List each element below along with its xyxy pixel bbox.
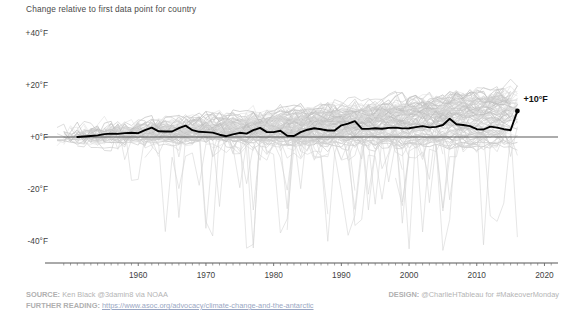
highlight-endpoint-marker [515, 109, 520, 114]
source-credit: SOURCE: Ken Black @3damin8 via NOAA [26, 290, 168, 299]
background-series-line [341, 134, 409, 226]
x-axis-tick-label: 1990 [332, 270, 350, 280]
further-reading-link[interactable]: https://www.asoc.org/advocacy/climate-ch… [102, 301, 314, 310]
chart-subtitle: Change relative to first data point for … [26, 4, 196, 14]
y-axis-tick-label: +40°F [2, 28, 48, 38]
y-axis-tick-label: +0°F [2, 132, 48, 142]
value-annotation: +10°F [523, 94, 547, 104]
design-text: @CharlieHTableau for #MakeoverMonday [421, 290, 559, 299]
x-axis-tick-label: 1980 [264, 270, 282, 280]
source-text: Ken Black @3damin8 via NOAA [62, 290, 168, 299]
x-axis-tick-labels: 1960197019801990200020102020 [0, 270, 569, 286]
x-axis-tick-label: 2000 [400, 270, 418, 280]
x-axis-tick-label: 2010 [468, 270, 486, 280]
chart-root: Change relative to first data point for … [0, 0, 569, 318]
source-label: SOURCE: [26, 290, 60, 299]
x-axis-tick-label: 1960 [129, 270, 147, 280]
design-credit: DESIGN: @CharlieHTableau for #MakeoverMo… [388, 290, 559, 299]
background-series-group [57, 79, 517, 250]
y-axis-tick-label: -40°F [2, 236, 48, 246]
further-reading: FURTHER READING: https://www.asoc.org/ad… [26, 301, 314, 310]
spaghetti-plot [0, 18, 569, 266]
design-label: DESIGN: [388, 290, 419, 299]
further-reading-label: FURTHER READING: [26, 301, 100, 310]
y-axis-tick-label: +20°F [2, 80, 48, 90]
background-series-line [165, 124, 443, 248]
x-axis-tick-label: 2020 [535, 270, 553, 280]
x-axis-tick-label: 1970 [197, 270, 215, 280]
chart-footer: SOURCE: Ken Black @3damin8 via NOAA DESI… [0, 288, 569, 318]
background-series-line [206, 124, 402, 248]
footer-row-reading: FURTHER READING: https://www.asoc.org/ad… [0, 301, 569, 313]
x-axis-ticks [45, 263, 558, 266]
y-axis-tick-label: -20°F [2, 184, 48, 194]
plot-area: +40°F+20°F+0°F-20°F-40°F [0, 18, 569, 266]
